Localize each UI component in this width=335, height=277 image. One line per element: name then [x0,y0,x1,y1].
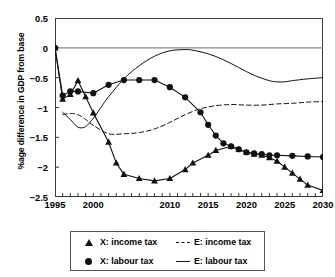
chart-legend: X: income tax E: income tax X: labour ta… [70,231,265,271]
y-tick-label: −0.5 [29,72,48,83]
x-tick-label: 2025 [274,199,295,210]
legend-row-2: X: labour tax E: labour tax [71,251,264,271]
x-tick-label: 1995 [45,199,66,210]
x-tick-label: 2015 [198,199,219,210]
y-tick-label: −1.5 [29,132,48,143]
x-axis-tick-labels: 1995200020102015202020252030 [55,199,323,215]
x-tick-label: 2020 [236,199,257,210]
legend-label: X: labour tax [100,256,153,266]
legend-row-1: X: income tax E: income tax [71,232,264,252]
y-axis-tick-labels: 0.50−0.5−1−1.5−2−2.5 [0,18,52,197]
circle-marker-icon [81,255,97,267]
x-tick-label: 2010 [159,199,180,210]
legend-item-x-labour-tax: X: labour tax [81,251,153,271]
legend-item-e-labour-tax: E: labour tax [175,251,247,271]
y-tick-label: −1 [37,102,48,113]
plot-svg [55,18,323,197]
legend-label: E: income tax [194,237,251,247]
y-tick-label: 0.5 [35,13,48,24]
x-tick-label: 2000 [83,199,104,210]
legend-label: X: income tax [100,237,157,247]
solid-line-icon [175,255,191,267]
y-tick-label: 0 [43,42,48,53]
series-x-income-tax [55,44,323,193]
chart-area: %age difference in GDP from base 0.50−0.… [0,0,335,226]
legend-item-x-income-tax: X: income tax [81,232,157,252]
x-tick-label: 2030 [313,199,334,210]
chart-figure: %age difference in GDP from base 0.50−0.… [0,0,335,277]
dashed-line-icon [175,236,191,248]
legend-item-e-income-tax: E: income tax [175,232,251,252]
plot-area [55,18,323,197]
series-x-labour-tax [55,45,323,160]
triangle-marker-icon [81,236,97,248]
legend-label: E: labour tax [194,256,247,266]
y-tick-label: −2 [37,162,48,173]
